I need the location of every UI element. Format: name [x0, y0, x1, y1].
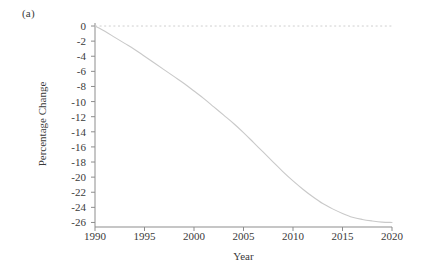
y-tick-label: -4 [52, 51, 86, 62]
x-axis-label: Year [95, 250, 392, 262]
y-tick-label: -2 [52, 36, 86, 47]
y-tick-label: -20 [52, 172, 86, 183]
y-tick-label: 0 [52, 21, 86, 32]
y-tick-label: -18 [52, 157, 86, 168]
y-axis-label: Percentage Change [36, 44, 48, 204]
y-tick-label: -8 [52, 81, 86, 92]
y-tick-label: -12 [52, 111, 86, 122]
data-series [95, 26, 392, 222]
series-line-percentage-change [95, 26, 392, 222]
panel-label: (a) [22, 7, 35, 19]
y-tick-label: -6 [52, 66, 86, 77]
y-tick-label: -16 [52, 141, 86, 152]
x-tick-label: 2020 [362, 231, 422, 242]
y-tick-label: -10 [52, 96, 86, 107]
y-tick-label: -22 [52, 187, 86, 198]
y-axis-tick-marks [91, 26, 95, 222]
y-tick-label: -26 [52, 217, 86, 228]
figure-panel-a: (a) Percentage Change 0-2-4-6-8-10-12-14… [0, 0, 426, 277]
axes [95, 23, 392, 227]
y-tick-label: -24 [52, 202, 86, 213]
y-tick-label: -14 [52, 126, 86, 137]
